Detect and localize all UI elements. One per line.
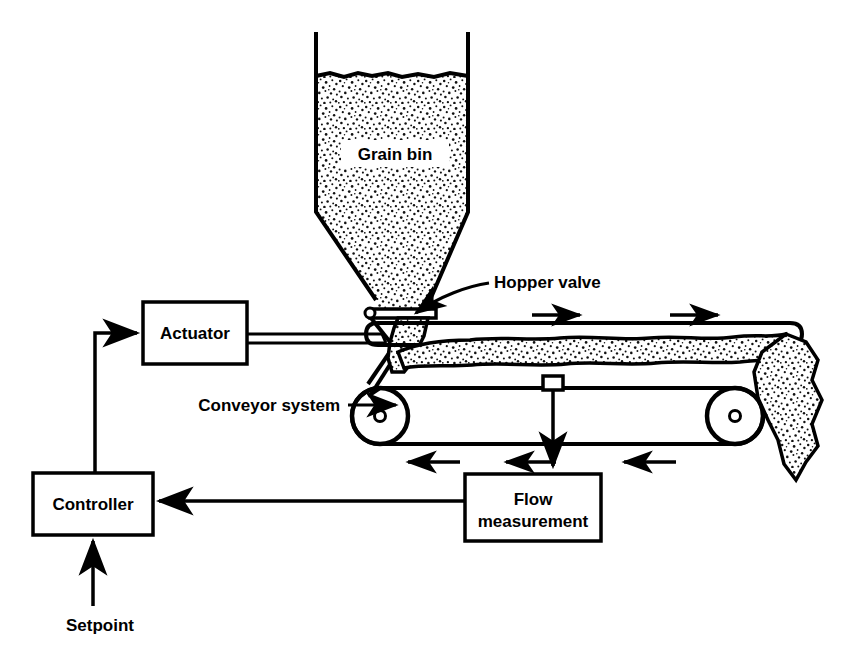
grain-on-belt bbox=[398, 334, 792, 368]
grain-bin-label-group: Grain bin bbox=[341, 140, 449, 167]
hopper-valve-label: Hopper valve bbox=[494, 273, 601, 292]
flow-sensor-tap bbox=[543, 376, 563, 466]
grain-bin-control-diagram: Grain bin Hopper valve bbox=[0, 0, 848, 655]
grain-bin-fill bbox=[316, 75, 468, 312]
conveyor-system-label: Conveyor system bbox=[198, 396, 340, 415]
actuator-label: Actuator bbox=[160, 324, 230, 343]
hopper-valve-callout: Hopper valve bbox=[416, 273, 601, 313]
grain-discharge-cascade bbox=[754, 334, 822, 480]
setpoint-label: Setpoint bbox=[66, 616, 134, 635]
controller-to-actuator-line bbox=[95, 333, 137, 473]
flow-measurement-label-line2: measurement bbox=[478, 512, 589, 531]
flow-sensor-block bbox=[543, 376, 563, 390]
conveyor-pulley-right-hub bbox=[730, 411, 741, 422]
controller-block[interactable]: Controller bbox=[33, 473, 153, 535]
flow-measurement-block[interactable]: Flow measurement bbox=[465, 474, 601, 541]
grain-bin-body bbox=[316, 32, 468, 312]
controller-label: Controller bbox=[52, 495, 134, 514]
diagram-canvas: Grain bin Hopper valve bbox=[0, 0, 848, 655]
grain-bin-label: Grain bin bbox=[358, 145, 433, 164]
conveyor-pulley-left-hub bbox=[375, 411, 386, 422]
actuator-block[interactable]: Actuator bbox=[143, 302, 247, 364]
hopper-valve-pivot bbox=[365, 308, 375, 318]
flow-measurement-label-line1: Flow bbox=[514, 490, 553, 509]
